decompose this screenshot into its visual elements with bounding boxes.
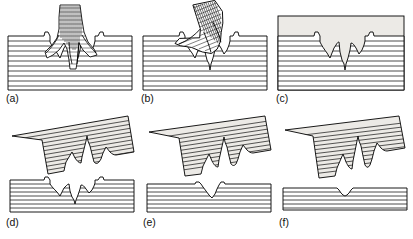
- panel-b-label: (b): [141, 93, 154, 104]
- panel-b-diagram: [139, 2, 272, 98]
- panel-d-label: (d): [6, 217, 19, 228]
- panel-f-natural-cast: [279, 116, 411, 178]
- panel-c: (c): [274, 2, 410, 112]
- track-formation-figure: (a): [0, 0, 413, 239]
- panel-d: (d): [4, 114, 140, 239]
- panel-e-label: (e): [143, 217, 156, 228]
- panel-f-diagram: [277, 114, 413, 222]
- panel-a: (a): [4, 2, 137, 112]
- panel-d-natural-cast: [6, 116, 138, 177]
- panel-e-substrate: [143, 182, 275, 212]
- panel-e-natural-cast: [143, 116, 275, 176]
- panel-f-substrate: [279, 188, 411, 210]
- panel-b: (b): [139, 2, 272, 112]
- panel-d-diagram: [4, 114, 140, 222]
- panel-a-diagram: [4, 2, 137, 98]
- panel-e-diagram: [141, 114, 277, 222]
- panel-a-label: (a): [6, 93, 19, 104]
- panel-d-substrate: [6, 177, 138, 212]
- panel-c-label: (c): [276, 93, 288, 104]
- panel-e: (e): [141, 114, 277, 239]
- panel-f-label: (f): [279, 217, 289, 228]
- panel-f: (f): [277, 114, 413, 239]
- panel-c-diagram: [274, 2, 410, 98]
